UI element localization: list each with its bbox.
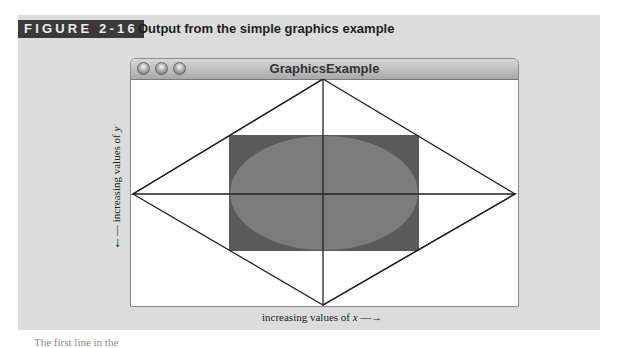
figure-label: FIGURE 2-16: [18, 20, 144, 38]
graphics-window: GraphicsExample: [130, 58, 519, 307]
y-axis-label: ←— increasing values of y: [108, 127, 124, 250]
figure-title: Output from the simple graphics example: [138, 20, 394, 38]
window-title: GraphicsExample: [131, 61, 518, 77]
body-text-fragment: The first line in the: [34, 336, 118, 348]
x-axis-label: increasing values of x —→: [262, 311, 382, 323]
graphics-canvas: [131, 79, 518, 306]
window-titlebar[interactable]: GraphicsExample: [131, 59, 518, 80]
filled-oval: [230, 136, 418, 250]
